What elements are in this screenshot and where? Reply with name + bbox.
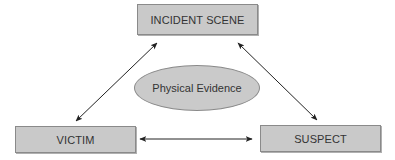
node-suspect: SUSPECT <box>260 125 381 152</box>
node-incident-scene: INCIDENT SCENE <box>137 4 258 35</box>
diagram-canvas: INCIDENT SCENE Physical Evidence VICTIM … <box>0 0 395 160</box>
center-label: Physical Evidence <box>152 82 241 94</box>
center-physical-evidence: Physical Evidence <box>134 65 260 111</box>
node-victim: VICTIM <box>15 126 136 153</box>
node-label: SUSPECT <box>294 133 347 145</box>
node-label: VICTIM <box>57 134 95 146</box>
node-label: INCIDENT SCENE <box>150 14 244 26</box>
